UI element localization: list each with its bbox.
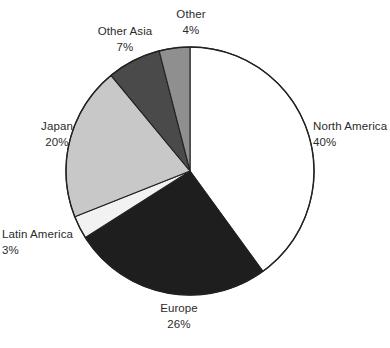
slice-label-europe-value: 26% (127, 316, 231, 332)
slice-label-other-asia: Other Asia 7% (83, 23, 167, 56)
pie-chart-figure: North America 40% Europe 26% Latin Ameri… (0, 0, 390, 348)
slice-label-latin-america: Latin America 3% (2, 226, 73, 259)
slice-label-latin-america-value: 3% (2, 242, 73, 258)
slice-label-japan-value: 20% (21, 134, 93, 150)
slice-label-north-america-value: 40% (313, 134, 387, 150)
slice-label-other-value: 4% (160, 22, 222, 38)
slice-label-japan: Japan 20% (21, 118, 93, 151)
slice-label-north-america: North America 40% (313, 118, 387, 151)
slice-label-latin-america-name: Latin America (2, 226, 73, 242)
slice-label-europe: Europe 26% (127, 300, 231, 333)
slice-label-other-name: Other (160, 6, 222, 22)
slice-label-other-asia-name: Other Asia (83, 23, 167, 39)
slice-label-other: Other 4% (160, 6, 222, 39)
slice-label-other-asia-value: 7% (83, 39, 167, 55)
slice-label-north-america-name: North America (313, 118, 387, 134)
pie-chart-canvas (0, 0, 390, 348)
slice-label-japan-name: Japan (21, 118, 93, 134)
pie-slice-group (66, 47, 314, 295)
slice-label-europe-name: Europe (127, 300, 231, 316)
